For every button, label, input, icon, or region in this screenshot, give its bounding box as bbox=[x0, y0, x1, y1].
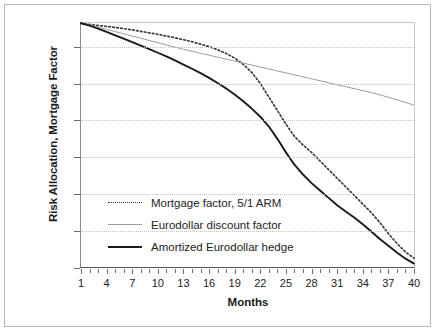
legend-swatch bbox=[108, 242, 142, 252]
x-tick-mark bbox=[397, 269, 398, 273]
x-tick-mark bbox=[141, 269, 142, 273]
x-tick-mark bbox=[337, 269, 338, 274]
x-tick-mark bbox=[286, 269, 287, 274]
chart-figure: Risk Allocation, Mortgage Factor Mortgag… bbox=[0, 0, 436, 332]
y-tick-mark bbox=[74, 268, 80, 269]
y-axis-title: Risk Allocation, Mortgage Factor bbox=[47, 9, 59, 259]
x-tick-mark bbox=[388, 269, 389, 274]
x-tick-mark bbox=[183, 269, 184, 274]
x-tick-mark bbox=[329, 269, 330, 273]
y-tick-mark bbox=[74, 194, 80, 195]
x-tick-mark bbox=[243, 269, 244, 273]
legend-label: Mortgage factor, 5/1 ARM bbox=[151, 197, 281, 209]
x-tick-mark bbox=[235, 269, 236, 274]
x-tick-mark bbox=[414, 269, 415, 274]
x-tick-mark bbox=[132, 269, 133, 274]
x-tick-mark bbox=[107, 269, 108, 274]
y-tick-mark bbox=[74, 231, 80, 232]
gridline-horizontal bbox=[81, 231, 415, 233]
x-tick-mark bbox=[346, 269, 347, 273]
x-axis-title: Months bbox=[80, 296, 416, 308]
x-tick-mark bbox=[149, 269, 150, 273]
gridline-horizontal bbox=[81, 47, 415, 49]
x-tick-mark bbox=[312, 269, 313, 274]
x-tick-mark bbox=[252, 269, 253, 273]
legend-label: Amortized Eurodollar hedge bbox=[151, 241, 294, 253]
legend-swatch bbox=[108, 220, 142, 230]
y-tick-mark bbox=[74, 47, 80, 48]
x-tick-mark bbox=[158, 269, 159, 274]
x-tick-mark bbox=[354, 269, 355, 273]
x-tick-mark bbox=[303, 269, 304, 273]
x-tick-mark bbox=[98, 269, 99, 273]
x-tick-mark bbox=[371, 269, 372, 273]
x-tick-mark bbox=[294, 269, 295, 273]
chart-legend: Mortgage factor, 5/1 ARMEurodollar disco… bbox=[108, 192, 323, 258]
x-tick-mark bbox=[226, 269, 227, 273]
x-tick-mark bbox=[218, 269, 219, 273]
y-tick-mark bbox=[74, 157, 80, 158]
x-tick-mark bbox=[277, 269, 278, 273]
y-tick-mark bbox=[74, 120, 80, 121]
x-tick-mark bbox=[192, 269, 193, 273]
x-tick-mark bbox=[81, 269, 82, 274]
x-tick-mark bbox=[380, 269, 381, 273]
x-tick-mark bbox=[175, 269, 176, 273]
x-tick-mark bbox=[115, 269, 116, 273]
x-tick-mark bbox=[405, 269, 406, 273]
gridline-horizontal bbox=[81, 157, 415, 159]
x-tick-mark bbox=[124, 269, 125, 273]
x-tick-mark bbox=[166, 269, 167, 273]
x-tick-mark bbox=[260, 269, 261, 274]
x-tick-label: 40 bbox=[399, 277, 429, 289]
x-tick-mark bbox=[363, 269, 364, 274]
x-tick-mark bbox=[269, 269, 270, 273]
x-tick-mark bbox=[209, 269, 210, 274]
gridline-horizontal bbox=[81, 84, 415, 86]
gridline-horizontal bbox=[81, 120, 415, 122]
legend-swatch bbox=[108, 198, 142, 208]
x-tick-mark bbox=[320, 269, 321, 273]
legend-label: Eurodollar discount factor bbox=[151, 219, 281, 231]
legend-item[interactable]: Amortized Eurodollar hedge bbox=[108, 236, 323, 258]
x-tick-mark bbox=[201, 269, 202, 273]
x-tick-mark bbox=[90, 269, 91, 273]
y-tick-mark bbox=[74, 84, 80, 85]
gridline-horizontal bbox=[81, 194, 415, 196]
